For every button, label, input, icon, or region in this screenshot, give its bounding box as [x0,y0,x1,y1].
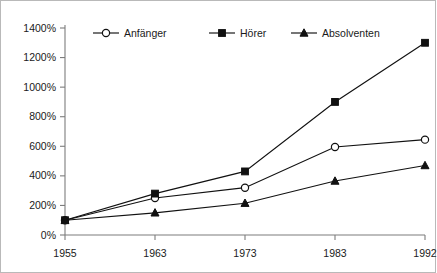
y-tick-label: 400% [29,169,56,181]
legend-marker-2 [219,30,226,37]
y-tick-label: 1400% [23,22,56,34]
data-point [331,143,338,150]
data-point [421,136,428,143]
x-tick-label: 1992 [413,247,437,259]
line-chart: 0%200%400%600%800%1000%1200%1400%1955196… [1,1,437,273]
x-tick-label: 1955 [53,247,77,259]
x-tick-label: 1983 [323,247,347,259]
y-tick-label: 600% [29,140,56,152]
legend-label-3: Absolventen [322,27,380,39]
x-tick-label: 1963 [143,247,167,259]
data-point [241,184,248,191]
series-hörer [62,39,429,223]
y-tick-label: 0% [41,229,56,241]
y-tick-label: 1200% [23,51,56,63]
data-point [421,161,429,168]
y-tick-label: 200% [29,199,56,211]
chart-legend: AnfängerHörerAbsolventen [93,27,380,39]
series-line [65,43,425,220]
series-anfänger [61,136,428,224]
x-tick-label: 1973 [233,247,257,259]
y-tick-label: 800% [29,110,56,122]
y-tick-label: 1000% [23,81,56,93]
data-point [422,39,429,46]
data-point [242,168,249,175]
legend-label-2: Hörer [240,27,267,39]
series-line [65,140,425,221]
data-point [152,190,159,197]
legend-marker-1 [102,29,109,36]
data-point [332,99,339,106]
legend-label-1: Anfänger [124,27,167,39]
